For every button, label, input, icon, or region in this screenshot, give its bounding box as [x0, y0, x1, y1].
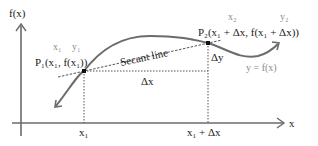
point-p2 [206, 41, 210, 45]
x-axis-label: x [289, 117, 295, 129]
secant-line-diagram: f(x) x x₁ y₁ P₁(x₁, f(x₁)) x₂ y₂ P₂(x₁ +… [0, 0, 318, 146]
p1-y-annotation: y₁ [72, 41, 81, 52]
secant-line-label: Secant line [119, 46, 169, 68]
y-axis-label: f(x) [9, 7, 26, 20]
delta-y-label: Δy [211, 51, 224, 63]
p2-y-annotation: y₂ [280, 11, 289, 22]
x-tick-x1: x₁ [79, 126, 89, 138]
p2-label: P₂(x₁ + Δx, f(x₁ + Δx)) [198, 26, 299, 39]
p1-x-annotation: x₁ [53, 41, 62, 52]
point-p1 [82, 69, 86, 73]
curve-label: y = f(x) [246, 62, 277, 74]
function-curve [56, 36, 278, 106]
delta-x-label: Δx [141, 75, 154, 87]
p1-label: P₁(x₁, f(x₁)) [35, 56, 88, 69]
p2-x-annotation: x₂ [228, 11, 237, 22]
x-tick-x1-plus-dx: x₁ + Δx [187, 126, 221, 138]
